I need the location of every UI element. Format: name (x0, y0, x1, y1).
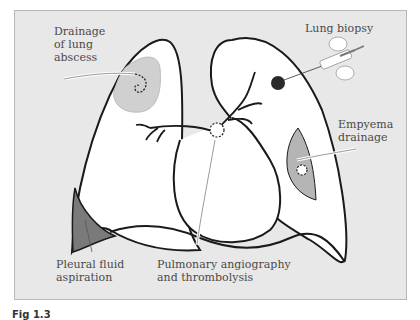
biopsy-syringe-icon (319, 37, 364, 80)
lung-lesion (271, 76, 285, 90)
label-empyema-drainage: Empyema drainage (338, 118, 393, 144)
label-pleural-aspiration: Pleural fluid aspiration (56, 258, 124, 284)
empyema-pigtail-icon (297, 165, 307, 175)
label-lung-biopsy: Lung biopsy (305, 22, 373, 35)
label-pulmonary-angiography: Pulmonary angiography and thrombolysis (157, 258, 291, 284)
label-abscess-drainage: Drainage of lung abscess (54, 25, 105, 64)
pulmonary-pigtail-icon (210, 123, 224, 137)
figure-caption: Fig 1.3 (12, 309, 51, 320)
